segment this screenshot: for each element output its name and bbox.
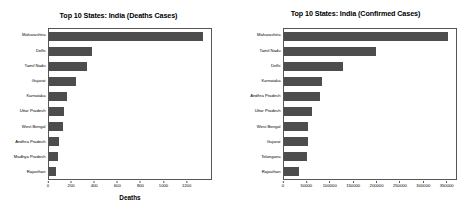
bar-maharashtra: [49, 32, 203, 41]
x-tick-label: 200000: [370, 184, 384, 188]
bar-tamil-nadu: [284, 47, 376, 56]
bar-row: [49, 119, 211, 134]
bar-row: [284, 104, 456, 119]
x-axis-ticks-deaths: 020040060080010001200: [48, 181, 212, 191]
x-tick: 50000: [301, 181, 313, 188]
y-tick-label: West Bengal: [245, 119, 283, 134]
plot-area-deaths: [48, 28, 212, 180]
x-tick: 600: [114, 181, 121, 188]
y-tick-label: Madhya Pradesh: [0, 150, 48, 165]
y-tick-label: Andhra Pradesh: [245, 89, 283, 104]
x-tick: 100000: [323, 181, 337, 188]
x-tick-label: 300000: [416, 184, 430, 188]
bar-tamil-nadu: [49, 62, 87, 71]
x-tick-label: 350000: [440, 184, 454, 188]
y-tick-label: Gujarat: [0, 74, 48, 89]
bar-row: [49, 29, 211, 44]
bar-uttar-pradesh: [284, 107, 312, 116]
bar-row: [284, 59, 456, 74]
y-tick-label: Andhra Pradesh: [0, 134, 48, 149]
x-tick-label: 200: [68, 184, 75, 188]
x-axis-title-deaths: Deaths: [48, 194, 212, 201]
bar-row: [284, 149, 456, 164]
y-tick-label: Delhi: [245, 58, 283, 73]
y-tick-label: Gujarat: [245, 134, 283, 149]
x-axis-ticks-confirmed: 0500001000001500002000002500003000003500…: [283, 181, 457, 191]
bars-confirmed: [284, 29, 456, 179]
x-tick: 0: [47, 181, 49, 188]
bar-row: [49, 164, 211, 179]
figure: Top 10 States: India (Deaths Cases) Maha…: [0, 0, 474, 212]
bar-row: [49, 89, 211, 104]
x-tick: 400: [91, 181, 98, 188]
y-tick-label: Karnataka: [0, 89, 48, 104]
x-tick-label: 250000: [393, 184, 407, 188]
bars-deaths: [49, 29, 211, 179]
x-tick: 300000: [416, 181, 430, 188]
x-tick-label: 0: [282, 184, 284, 188]
x-tick: 250000: [393, 181, 407, 188]
bar-row: [49, 149, 211, 164]
bar-row: [284, 119, 456, 134]
bar-karnataka: [284, 77, 322, 86]
bar-row: [49, 134, 211, 149]
bar-andhra-pradesh: [284, 92, 320, 101]
bar-gujarat: [49, 77, 76, 86]
y-tick-label: Rajasthan: [0, 165, 48, 180]
bar-rajasthan: [49, 167, 56, 176]
bar-row: [49, 59, 211, 74]
x-tick-label: 150000: [346, 184, 360, 188]
y-tick-label: Karnataka: [245, 74, 283, 89]
y-tick-label: Tamil Nadu: [0, 58, 48, 73]
y-tick-label: Tamil Nadu: [245, 43, 283, 58]
bar-row: [284, 134, 456, 149]
x-tick-label: 100000: [323, 184, 337, 188]
bar-maharashtra: [284, 32, 448, 41]
y-tick-label: Uttar Pradesh: [0, 104, 48, 119]
x-tick: 150000: [346, 181, 360, 188]
bar-karnataka: [49, 92, 67, 101]
x-tick: 800: [137, 181, 144, 188]
x-tick: 200: [68, 181, 75, 188]
x-tick: 0: [282, 181, 284, 188]
x-tick: 1200: [182, 181, 191, 188]
bar-telangana: [284, 152, 307, 161]
x-tick-label: 0: [47, 184, 49, 188]
bar-row: [284, 44, 456, 59]
bar-andhra-pradesh: [49, 137, 59, 146]
x-tick: 1000: [159, 181, 168, 188]
bar-row: [49, 44, 211, 59]
bar-rajasthan: [284, 167, 299, 176]
y-tick-label: Rajasthan: [245, 165, 283, 180]
x-tick-label: 400: [91, 184, 98, 188]
x-tick-label: 1000: [159, 184, 168, 188]
bar-delhi: [49, 47, 92, 56]
bar-gujarat: [284, 137, 308, 146]
bar-row: [284, 164, 456, 179]
x-tick: 200000: [370, 181, 384, 188]
x-tick-label: 800: [137, 184, 144, 188]
x-tick-label: 1200: [182, 184, 191, 188]
bar-west-bengal: [284, 122, 308, 131]
bar-row: [284, 89, 456, 104]
bar-uttar-pradesh: [49, 107, 64, 116]
bar-delhi: [284, 62, 343, 71]
bar-madhya-pradesh: [49, 152, 58, 161]
chart-panel-confirmed: Top 10 States: India (Confirmed Cases) M…: [237, 0, 474, 212]
y-tick-label: Telangana: [245, 150, 283, 165]
plot-area-confirmed: [283, 28, 457, 180]
chart-title-confirmed: Top 10 States: India (Confirmed Cases): [237, 9, 474, 18]
bar-row: [49, 104, 211, 119]
x-tick-label: 50000: [301, 184, 313, 188]
x-tick: 350000: [440, 181, 454, 188]
bar-row: [284, 29, 456, 44]
bar-west-bengal: [49, 122, 63, 131]
y-tick-label: Uttar Pradesh: [245, 104, 283, 119]
chart-title-deaths: Top 10 States: India (Deaths Cases): [0, 11, 237, 20]
y-tick-label: West Bengal: [0, 119, 48, 134]
y-axis-labels-confirmed: Maharashtra Tamil Nadu Delhi Karnataka A…: [245, 28, 283, 180]
chart-panel-deaths: Top 10 States: India (Deaths Cases) Maha…: [0, 0, 237, 212]
x-tick-label: 600: [114, 184, 121, 188]
y-tick-label: Maharashtra: [245, 28, 283, 43]
y-tick-label: Maharashtra: [0, 28, 48, 43]
